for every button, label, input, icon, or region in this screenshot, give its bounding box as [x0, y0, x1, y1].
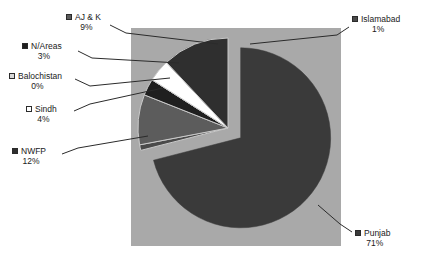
swatch-nwfp-icon [12, 148, 18, 154]
pie-slices-group [138, 38, 228, 150]
label-balochistan-percent: 0% [9, 81, 62, 91]
label-punjab: Punjab 71% [355, 228, 390, 248]
swatch-punjab-icon [355, 230, 361, 236]
label-ajk-percent: 9% [66, 22, 101, 32]
label-sindh-percent: 4% [26, 114, 57, 124]
pie-chart: AJ & K 9% N/Areas 3% Balochistan 0% Sind… [0, 0, 430, 264]
label-nwfp-percent: 12% [12, 156, 46, 166]
leader-line-nareas [78, 51, 179, 63]
leader-line-punjab [318, 205, 352, 232]
label-islamabad-percent: 1% [352, 24, 400, 34]
leader-line-islamabad [250, 27, 349, 44]
swatch-nareas-icon [22, 43, 28, 49]
label-nareas-name: N/Areas [31, 41, 62, 51]
swatch-balochistan-icon [9, 73, 15, 79]
label-nareas-percent: 3% [22, 51, 62, 61]
label-punjab-name: Punjab [364, 228, 390, 238]
label-islamabad-name: Islamabad [361, 14, 400, 24]
label-nwfp: NWFP 12% [12, 146, 46, 166]
swatch-ajk-icon [66, 14, 72, 20]
pie-svg [0, 0, 430, 264]
swatch-islamabad-icon [352, 16, 358, 22]
label-sindh-name: Sindh [35, 104, 57, 114]
label-islamabad: Islamabad 1% [352, 14, 400, 34]
label-balochistan: Balochistan 0% [9, 71, 62, 91]
label-nareas: N/Areas 3% [22, 41, 62, 61]
label-ajk: AJ & K 9% [66, 12, 101, 32]
label-ajk-name: AJ & K [75, 12, 101, 22]
label-balochistan-name: Balochistan [18, 71, 62, 81]
leader-line-nwfp [62, 136, 148, 154]
label-nwfp-name: NWFP [21, 146, 46, 156]
label-sindh: Sindh 4% [26, 104, 57, 124]
label-punjab-percent: 71% [355, 238, 390, 248]
swatch-sindh-icon [26, 106, 32, 112]
